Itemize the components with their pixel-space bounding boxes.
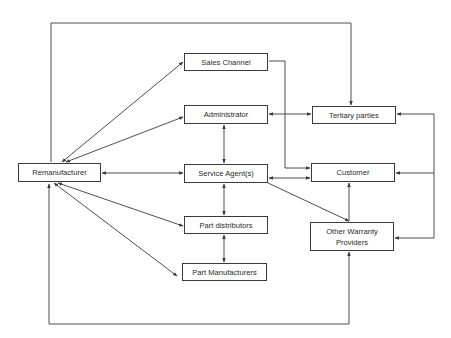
edge-bottom-loop [49,184,349,324]
node-service-agents: Service Agent(s) [184,164,268,183]
edge-remanufacturer-administrator [66,117,183,162]
edge-remanufacturer-part-distributors [58,183,183,226]
edge-remanufacturer-sales-channel [62,62,183,162]
node-part-manufacturers: Part Manufacturers [182,263,267,281]
edge-service-agents-owp [268,183,349,221]
node-tertiary-parties: Tertiary parties [312,106,396,124]
node-administrator: Administrator [184,105,268,124]
edge-top-loop [51,23,351,162]
edge-sales-channel-customer [269,61,310,168]
edge-remanufacturer-part-manufacturers [54,183,177,276]
warranty-network-diagram: Remanufacturer Sales Channel Administrat… [0,0,451,338]
node-sales-channel: Sales Channel [184,53,268,71]
node-remanufacturer: Remanufacturer [18,163,101,182]
node-customer: Customer [311,163,395,182]
node-other-warranty-providers: Other Warranty Providers [310,222,394,251]
node-part-distributors: Part distributors [184,216,268,234]
